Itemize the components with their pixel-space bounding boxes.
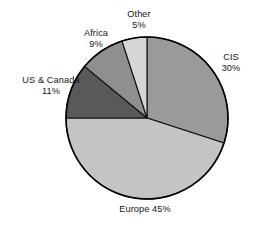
pie-chart-graphic [0,0,263,226]
slice-label-cis: CIS 30% [208,52,254,74]
slice-label-us-canada: US & Canada 11% [12,75,90,97]
slice-label-cis-name: CIS [208,52,254,63]
slice-label-us-canada-value: 11% [12,86,90,97]
slice-label-other-name: Other [113,9,165,20]
slice-label-africa-name: Africa [70,28,122,39]
slice-label-africa-value: 9% [70,39,122,50]
slice-label-europe-text: Europe 45% [119,204,171,214]
slice-label-us-canada-name: US & Canada [12,75,90,86]
slice-label-europe: Europe 45% [105,204,185,215]
slice-label-africa: Africa 9% [70,28,122,50]
pie-slice-group [66,37,228,199]
slice-label-cis-value: 30% [208,63,254,74]
pie-chart-figure: Other 5% Africa 9% US & Canada 11% CIS 3… [0,0,263,226]
